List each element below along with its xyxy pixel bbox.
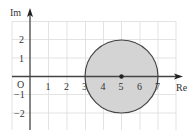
x-tick-3: 3 [82,81,87,92]
y-tick-1: 1 [19,53,24,64]
argand-diagram: Im Re O 1 2 3 4 5 6 7 2 1 −1 −2 [0,0,191,133]
x-tick-2: 2 [64,81,69,92]
y-tick-neg2: −2 [14,108,25,119]
x-tick-6: 6 [137,81,142,92]
imaginary-axis-label: Im [10,7,21,18]
real-axis-label: Re [176,82,188,93]
x-tick-7: 7 [155,81,160,92]
x-tick-1: 1 [46,81,51,92]
y-tick-2: 2 [19,34,24,45]
y-tick-neg1: −1 [14,89,25,100]
x-tick-4: 4 [101,81,106,92]
center-point [119,74,123,78]
x-tick-5: 5 [119,81,124,92]
